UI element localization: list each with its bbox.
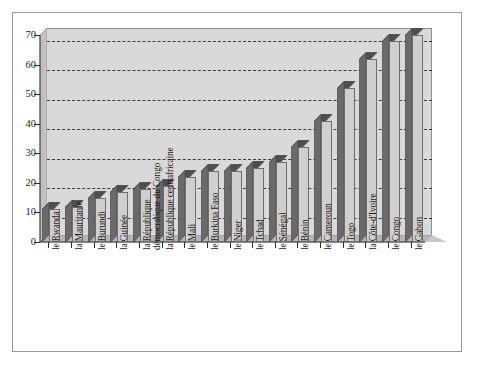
ytick-label-60: 60 <box>14 60 36 70</box>
ytick-label-50: 50 <box>14 89 36 99</box>
xaxis-label: la Guinée <box>119 215 129 250</box>
ytick-label-40: 40 <box>14 119 36 129</box>
xaxis-label: le Togo <box>346 223 356 250</box>
plot-area: 0 10 20 30 40 50 60 70 le Rwandala Mauri… <box>0 0 477 370</box>
chart-figure: 0 10 20 30 40 50 60 70 le Rwandala Mauri… <box>0 0 477 370</box>
xaxis-label: le Cameroun <box>323 203 333 250</box>
ytick-mark-50 <box>34 94 40 95</box>
bar-front-face <box>389 41 400 242</box>
xtick-mark <box>297 242 298 248</box>
ytick-label-0: 0 <box>14 237 36 247</box>
xaxis-label: le Burkina Faso <box>210 193 220 250</box>
xtick-mark <box>320 242 321 248</box>
xaxis-label: le Sénégal <box>278 213 288 250</box>
xaxis-label: la République centrafricaine <box>165 147 175 250</box>
bar-front-face <box>412 35 423 242</box>
xtick-mark <box>48 242 49 248</box>
xaxis-label: le Rwanda <box>51 211 61 250</box>
xaxis-label: le Niger <box>233 221 243 250</box>
xaxis-label: le Mali <box>187 224 197 250</box>
bar <box>337 81 355 242</box>
bar <box>382 34 400 242</box>
xtick-mark <box>343 242 344 248</box>
xaxis-label: le Congo <box>391 217 401 250</box>
xtick-mark <box>162 242 163 248</box>
xtick-mark <box>71 242 72 248</box>
ytick-mark-20 <box>34 183 40 184</box>
xtick-mark <box>275 242 276 248</box>
xaxis-label: la Mauritanie <box>74 201 84 250</box>
xtick-mark <box>207 242 208 248</box>
ytick-mark-10 <box>34 212 40 213</box>
xaxis-label: le Bénin <box>300 220 310 250</box>
xaxis-label: le Burundi <box>97 211 107 250</box>
xtick-mark <box>230 242 231 248</box>
xaxis-label: la République <box>142 199 152 250</box>
ytick-label-10: 10 <box>14 207 36 217</box>
xaxis-label: le Gabon <box>414 217 424 250</box>
ytick-mark-0 <box>34 242 40 243</box>
xtick-mark <box>94 242 95 248</box>
xtick-mark <box>184 242 185 248</box>
ytick-label-20: 20 <box>14 178 36 188</box>
ytick-mark-60 <box>34 65 40 66</box>
xtick-mark <box>116 242 117 248</box>
ytick-label-70: 70 <box>14 30 36 40</box>
xaxis-label: le Tchad <box>255 219 265 250</box>
bar-front-face <box>344 88 355 242</box>
ytick-mark-30 <box>34 153 40 154</box>
gridline-70 <box>47 41 432 42</box>
ytick-mark-40 <box>34 124 40 125</box>
ytick-mark-70 <box>34 35 40 36</box>
xtick-mark <box>139 242 140 248</box>
xtick-mark <box>388 242 389 248</box>
bar <box>405 28 423 242</box>
xtick-mark <box>365 242 366 248</box>
xaxis-label: démocratique du Congo <box>152 163 162 250</box>
xtick-mark <box>252 242 253 248</box>
ytick-label-30: 30 <box>14 148 36 158</box>
xtick-mark <box>411 242 412 248</box>
xaxis-label: la Côte-d'Ivoire <box>368 193 378 250</box>
